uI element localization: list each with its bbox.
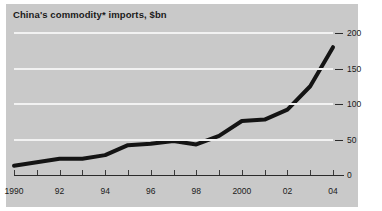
y-axis-label: 50 <box>347 135 356 145</box>
x-axis-label: 92 <box>55 186 64 196</box>
x-axis-tick <box>105 170 106 175</box>
x-axis-tick <box>151 170 152 175</box>
x-axis-label: 02 <box>283 186 292 196</box>
x-axis-label: 98 <box>192 186 201 196</box>
y-axis-tick <box>335 104 343 105</box>
y-axis-label: 200 <box>347 28 361 38</box>
x-axis-tick <box>333 170 334 175</box>
y-axis-tick <box>335 69 343 70</box>
x-axis-tick <box>242 170 243 175</box>
x-axis-label: 1990 <box>5 186 24 196</box>
x-axis-label: 94 <box>100 186 109 196</box>
x-axis-label: 04 <box>328 186 337 196</box>
y-axis-label: 150 <box>347 64 361 74</box>
x-axis-tick <box>174 170 175 175</box>
x-axis-tick <box>196 170 197 175</box>
chart-title: China's commodity* imports, $bn <box>13 9 167 20</box>
x-axis-tick <box>128 170 129 175</box>
x-axis-tick <box>82 170 83 175</box>
x-axis-tick <box>265 170 266 175</box>
x-axis-tick <box>287 170 288 175</box>
gridline <box>14 68 333 70</box>
y-axis-tick <box>335 140 343 141</box>
x-axis-label: 2000 <box>232 186 251 196</box>
x-axis-tick <box>310 170 311 175</box>
gridline <box>14 139 333 141</box>
x-axis-tick <box>14 170 15 175</box>
y-axis-label: 100 <box>347 99 361 109</box>
y-axis-tick <box>335 33 343 34</box>
y-axis-label: 0 <box>347 170 352 180</box>
x-axis-tick <box>60 170 61 175</box>
chart-screenshot: China's commodity* imports, $bn 05010015… <box>0 0 382 211</box>
gridline <box>14 103 333 105</box>
x-axis-tick <box>37 170 38 175</box>
x-axis-tick <box>219 170 220 175</box>
x-axis-label: 96 <box>146 186 155 196</box>
x-axis-line <box>14 175 344 176</box>
gridline <box>14 32 333 34</box>
